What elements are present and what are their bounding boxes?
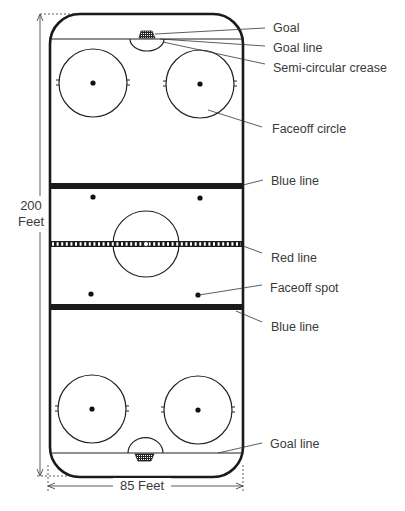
width-dimension-label: 85 Feet	[113, 478, 171, 494]
label-blue-line-bottom: Blue line	[271, 320, 319, 334]
faceoff-spot	[197, 195, 202, 200]
faceoff-spot	[88, 291, 93, 296]
label-blue-line-top: Blue line	[271, 174, 319, 188]
rink-diagram	[0, 0, 405, 511]
label-semi-circular-crease: Semi-circular crease	[273, 61, 387, 75]
label-goal-line-bottom: Goal line	[270, 437, 319, 451]
label-faceoff-spot: Faceoff spot	[270, 281, 339, 295]
red-line	[51, 241, 242, 247]
length-unit: Feet	[17, 214, 45, 230]
goal-bottom	[135, 454, 154, 461]
goal-top	[139, 31, 155, 38]
label-goal-line-top: Goal line	[273, 41, 322, 55]
label-red-line: Red line	[271, 251, 317, 265]
label-faceoff-circle: Faceoff circle	[272, 122, 346, 136]
blue-line-bottom	[51, 304, 242, 310]
faceoff-spot	[90, 194, 95, 199]
blue-line-top	[51, 183, 242, 189]
length-dimension-label: 200 Feet	[17, 198, 45, 230]
label-goal: Goal	[273, 21, 299, 35]
length-value: 200	[17, 198, 45, 214]
